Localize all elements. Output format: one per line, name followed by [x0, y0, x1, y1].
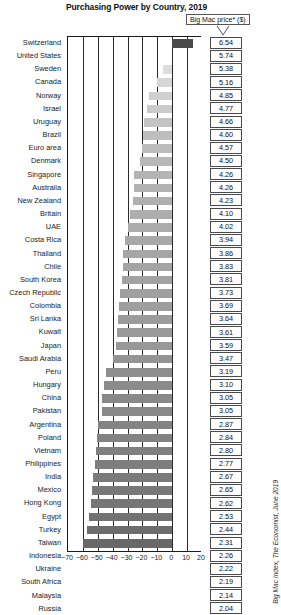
value-box: 3.19 [210, 365, 242, 377]
value-row: 2.67 [206, 470, 246, 483]
bar-row [68, 103, 201, 116]
value-row: 3.59 [206, 339, 246, 352]
value-box: 3.59 [210, 339, 242, 351]
category-label: UAE [0, 220, 64, 233]
bar [113, 355, 172, 364]
value-row: 3.61 [206, 325, 246, 338]
bar-row [68, 76, 201, 89]
bar-row [68, 379, 201, 392]
category-label: South Korea [0, 273, 64, 286]
value-row: 2.04 [206, 602, 246, 615]
bar [143, 131, 173, 140]
value-row: 4.23 [206, 194, 246, 207]
bar [102, 407, 172, 416]
value-row: 4.85 [206, 89, 246, 102]
bar [93, 473, 173, 482]
bar-row [68, 287, 201, 300]
value-row: 2.44 [206, 523, 246, 536]
value-row: 4.50 [206, 154, 246, 167]
x-tick-label: −30 [121, 554, 133, 561]
value-box: 3.86 [210, 247, 242, 259]
x-tick-label: −10 [150, 554, 162, 561]
category-label: United States [0, 49, 64, 62]
category-label: Sweden [0, 62, 64, 75]
value-box: 4.26 [210, 168, 242, 180]
value-row: 2.53 [206, 510, 246, 523]
value-row: 3.69 [206, 299, 246, 312]
value-row: 3.05 [206, 404, 246, 417]
x-tick-label: 20 [197, 554, 205, 561]
bar [140, 157, 172, 166]
x-tick-label: 0 [169, 554, 173, 561]
category-label: Thailand [0, 247, 64, 260]
value-box: 3.94 [210, 234, 242, 246]
value-box: 4.26 [210, 181, 242, 193]
x-tick-label: −60 [76, 554, 88, 561]
legend-pointer-icon [216, 26, 230, 36]
category-label: Czech Republic [0, 286, 64, 299]
bar [116, 342, 172, 351]
category-label: Canada [0, 75, 64, 88]
category-label: Norway [0, 89, 64, 102]
value-box: 2.31 [210, 537, 242, 549]
value-box: 2.44 [210, 523, 242, 535]
category-label: Sri Lanka [0, 312, 64, 325]
value-box: 4.50 [210, 155, 242, 167]
value-row: 3.81 [206, 273, 246, 286]
bar [117, 328, 172, 337]
value-box: 2.84 [210, 431, 242, 443]
bar [134, 184, 172, 193]
x-tick-label: 10 [182, 554, 190, 561]
value-row: 2.77 [206, 457, 246, 470]
bar [128, 223, 173, 232]
value-box: 6.54 [210, 37, 242, 49]
value-row: 3.64 [206, 312, 246, 325]
bar [118, 315, 172, 324]
value-row: 3.19 [206, 365, 246, 378]
bar-row [68, 432, 201, 445]
bar [87, 526, 173, 535]
bar-row [68, 37, 201, 50]
value-row: 3.86 [206, 247, 246, 260]
value-row: 3.05 [206, 391, 246, 404]
bar [119, 302, 172, 311]
value-box: 3.69 [210, 300, 242, 312]
category-label: Uruguay [0, 115, 64, 128]
value-box: 5.38 [210, 63, 242, 75]
bar [134, 171, 172, 180]
bar [125, 236, 172, 245]
bar [104, 381, 172, 390]
value-row: 3.10 [206, 378, 246, 391]
value-box: 2.67 [210, 471, 242, 483]
bar [142, 144, 172, 153]
category-label: Egypt [0, 510, 64, 523]
category-label: Saudi Arabia [0, 352, 64, 365]
category-label: Japan [0, 339, 64, 352]
value-box: 3.81 [210, 273, 242, 285]
value-row: 2.62 [206, 496, 246, 509]
value-row: 5.74 [206, 49, 246, 62]
bar-row [68, 419, 201, 432]
category-label: Israel [0, 102, 64, 115]
category-label: Euro area [0, 141, 64, 154]
bar-row [68, 234, 201, 247]
bar [120, 289, 172, 298]
value-row: 4.26 [206, 168, 246, 181]
value-row: 3.73 [206, 286, 246, 299]
bar-row [68, 484, 201, 497]
category-label: Vietnam [0, 444, 64, 457]
bar-row [68, 274, 201, 287]
value-box: 3.61 [210, 326, 242, 338]
value-label-column: 6.545.745.385.164.854.774.664.604.574.50… [206, 36, 246, 552]
category-label: Denmark [0, 154, 64, 167]
value-box: 2.04 [210, 602, 242, 614]
bar [172, 39, 193, 48]
value-box: 5.16 [210, 76, 242, 88]
value-row: 4.60 [206, 128, 246, 141]
bar-row [68, 313, 201, 326]
category-label: Brazil [0, 128, 64, 141]
bar [102, 394, 172, 403]
bar [123, 263, 173, 272]
value-box: 4.85 [210, 89, 242, 101]
bar [163, 65, 172, 74]
